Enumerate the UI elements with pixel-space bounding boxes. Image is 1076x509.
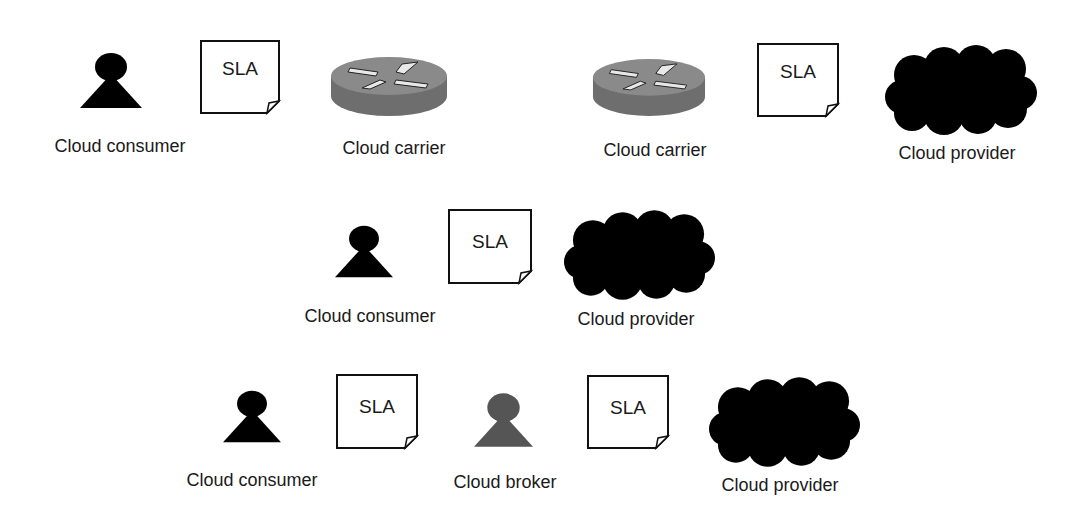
- sla-label: SLA: [587, 397, 669, 419]
- carrier-label: Cloud carrier: [603, 140, 706, 160]
- consumer-label: Cloud consumer: [54, 136, 185, 156]
- consumer-icon: [335, 223, 393, 279]
- router-icon: [592, 57, 706, 119]
- provider-label: Cloud provider: [721, 475, 838, 495]
- cloud-provider-icon: [563, 210, 716, 300]
- provider-label: Cloud provider: [898, 143, 1015, 163]
- consumer-icon: [80, 52, 142, 108]
- broker-icon: [474, 392, 533, 448]
- sla-label: SLA: [757, 61, 839, 83]
- cloud-provider-icon: [708, 377, 861, 467]
- consumer-label: Cloud consumer: [304, 306, 435, 326]
- cloud-provider-icon: [884, 45, 1038, 135]
- router-icon: [330, 56, 448, 118]
- sla-document-icon: SLA: [587, 375, 669, 449]
- sla-document-icon: SLA: [200, 40, 280, 114]
- sla-document-icon: SLA: [336, 374, 418, 449]
- consumer-icon: [223, 388, 281, 444]
- provider-label: Cloud provider: [577, 309, 694, 329]
- sla-label: SLA: [200, 58, 280, 80]
- sla-label: SLA: [448, 231, 532, 253]
- broker-label: Cloud broker: [453, 472, 556, 492]
- consumer-label: Cloud consumer: [186, 470, 317, 490]
- carrier-label: Cloud carrier: [342, 138, 445, 158]
- sla-label: SLA: [336, 396, 418, 418]
- sla-document-icon: SLA: [448, 209, 532, 284]
- sla-document-icon: SLA: [757, 43, 839, 117]
